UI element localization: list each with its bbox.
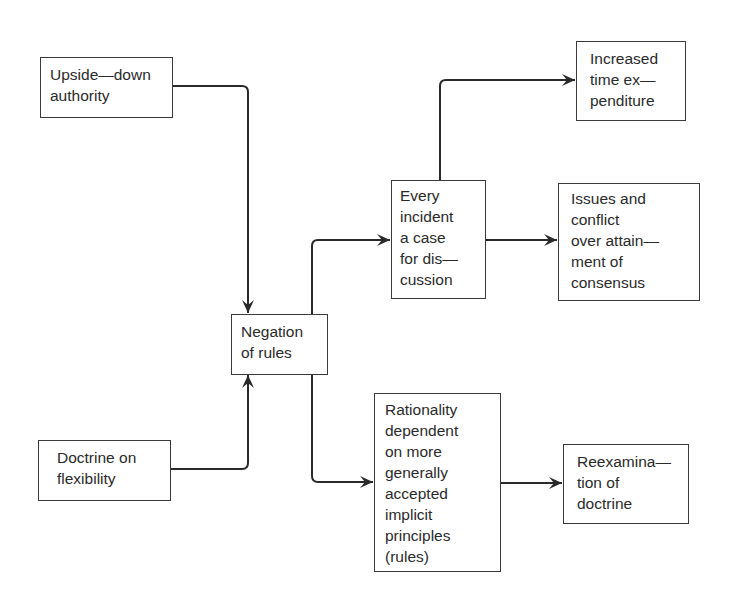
node-label-line: principles xyxy=(385,525,490,546)
node-label-line: authority xyxy=(50,85,163,106)
node-label-line: time ex— xyxy=(590,69,676,90)
node-label-line: Negation xyxy=(241,321,318,342)
node-label-line: dependent xyxy=(385,420,490,441)
edge-negation-to-rationality xyxy=(312,374,373,482)
node-reexamination-of-doctrine: Reexamina— tion of doctrine xyxy=(563,444,689,524)
node-label-line: ment of xyxy=(571,251,687,272)
node-label-line: generally xyxy=(385,462,490,483)
node-rationality: Rationality dependent on more generally … xyxy=(374,393,501,572)
node-label-line: penditure xyxy=(590,90,676,111)
node-label-line: tion of xyxy=(577,472,679,493)
node-label-line: consensus xyxy=(571,272,687,293)
edge-every-incident-to-increased-time xyxy=(440,80,575,180)
node-label-line: flexibility xyxy=(57,468,161,489)
node-label-line: Doctrine on xyxy=(57,447,161,468)
node-negation-of-rules: Negation of rules xyxy=(231,314,328,375)
node-upside-down-authority: Upside—down authority xyxy=(40,57,173,118)
edge-doctrine-to-negation xyxy=(170,375,248,469)
node-label-line: doctrine xyxy=(577,493,679,514)
node-doctrine-on-flexibility: Doctrine on flexibility xyxy=(38,440,171,501)
edge-upside-down-to-negation xyxy=(172,86,248,313)
node-label-line: Increased xyxy=(590,48,676,69)
node-label-line: a case xyxy=(400,227,477,248)
node-label-line: for dis— xyxy=(400,248,477,269)
node-label-line: Upside—down xyxy=(50,64,163,85)
node-issues-and-conflict: Issues and conflict over attain— ment of… xyxy=(558,183,700,301)
node-increased-time-expenditure: Increased time ex— penditure xyxy=(576,41,686,121)
node-label-line: conflict xyxy=(571,209,687,230)
node-label-line: Every xyxy=(400,185,477,206)
node-label-line: Reexamina— xyxy=(577,451,679,472)
node-label-line: incident xyxy=(400,206,477,227)
node-label-line: implicit xyxy=(385,504,490,525)
node-label-line: Issues and xyxy=(571,188,687,209)
node-label-line: accepted xyxy=(385,483,490,504)
node-label-line: cussion xyxy=(400,269,477,290)
node-label-line: on more xyxy=(385,441,490,462)
node-label-line: of rules xyxy=(241,342,318,363)
node-label-line: over attain— xyxy=(571,230,687,251)
edge-negation-to-every-incident xyxy=(312,240,390,314)
node-every-incident: Every incident a case for dis— cussion xyxy=(391,180,486,299)
node-label-line: (rules) xyxy=(385,546,490,567)
node-label-line: Rationality xyxy=(385,399,490,420)
